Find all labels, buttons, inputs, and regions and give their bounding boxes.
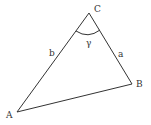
angle-gamma-arc	[76, 30, 100, 35]
triangle-diagram: C A B b a γ	[0, 0, 151, 125]
side-label-a: a	[118, 49, 124, 59]
angle-label-gamma: γ	[86, 38, 91, 48]
vertex-label-a: A	[5, 110, 13, 120]
vertex-label-b: B	[136, 79, 143, 89]
side-label-b: b	[49, 48, 55, 58]
side-a	[89, 13, 132, 84]
vertex-label-c: C	[94, 4, 101, 14]
